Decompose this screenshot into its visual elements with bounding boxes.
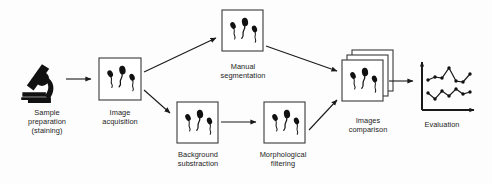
morphological-filtering-box: [264, 102, 305, 143]
label-sample-preparation: Sample preparation (staining): [8, 108, 86, 136]
label-background-substraction: Background substraction: [158, 150, 238, 168]
label-image-acquisition: Image acquisition: [82, 108, 158, 126]
line-chart-icon: [422, 62, 474, 110]
label-evaluation: Evaluation: [404, 120, 480, 129]
microscope-icon: [21, 64, 53, 103]
label-morphological-filtering: Morphological filtering: [238, 150, 328, 168]
chart-series-1: [428, 68, 470, 82]
manual-segmentation-box: [222, 10, 263, 51]
figure-canvas: Sample preparation (staining) Image acqu…: [0, 0, 492, 184]
label-images-comparison: Images comparison: [330, 116, 406, 134]
images-comparison-stack: [342, 50, 393, 101]
label-manual-segmentation: Manual segmentation: [200, 62, 286, 80]
image-acquisition-box: [99, 58, 141, 100]
background-substraction-box: [177, 102, 218, 143]
